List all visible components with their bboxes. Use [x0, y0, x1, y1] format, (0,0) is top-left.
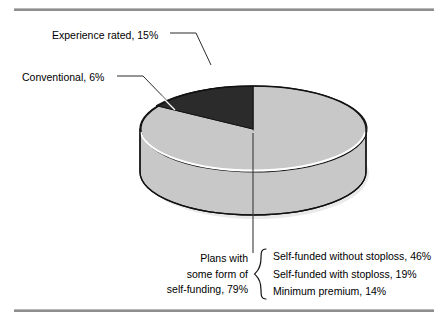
bracket-left-label: Plans with some form of self-funding, 79…	[160, 251, 248, 298]
bracket-left-label-line2: some form of	[160, 267, 248, 283]
bracket-left-label-line3: self-funding, 79%	[160, 282, 248, 298]
self-funding-breakdown-group: Plans with some form of self-funding, 79…	[160, 248, 440, 301]
list-item: Self-funded without stoploss, 46%	[273, 248, 431, 266]
self-funding-item-list: Self-funded without stoploss, 46% Self-f…	[273, 248, 431, 301]
callout-label-conventional: Conventional, 6%	[22, 71, 104, 84]
bracket-left-label-line1: Plans with	[160, 251, 248, 267]
list-item: Minimum premium, 14%	[273, 283, 431, 301]
callout-label-experience-rated: Experience rated, 15%	[52, 29, 158, 42]
figure-container: Experience rated, 15% Conventional, 6% P…	[0, 0, 448, 326]
list-item: Self-funded with stoploss, 19%	[273, 266, 431, 284]
curly-brace-icon	[253, 248, 269, 300]
